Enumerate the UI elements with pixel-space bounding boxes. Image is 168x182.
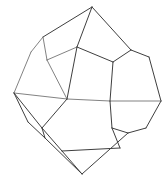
polyhedron-wireframe-figure: [0, 0, 168, 182]
